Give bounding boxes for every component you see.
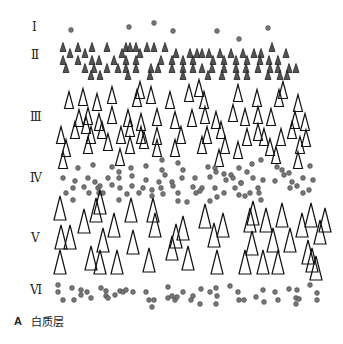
cell-dot bbox=[214, 286, 219, 291]
cell-dot bbox=[127, 25, 132, 30]
cell-dot bbox=[243, 194, 248, 199]
pyramidal-cell bbox=[185, 85, 194, 102]
pyramidal-cell bbox=[296, 213, 308, 237]
pyramidal-cell bbox=[166, 92, 175, 109]
layer-label-5: Ⅴ bbox=[31, 232, 40, 244]
pyramidal-cell bbox=[153, 109, 162, 126]
cell-dot bbox=[144, 164, 149, 169]
cell-dot bbox=[276, 298, 281, 303]
small-pyramidal-cell bbox=[96, 56, 102, 65]
pyramidal-cell bbox=[126, 120, 135, 137]
cell-dot bbox=[261, 178, 266, 183]
cell-dot bbox=[160, 168, 165, 173]
cell-dot bbox=[144, 178, 149, 183]
figure-caption: A 白质层 bbox=[14, 313, 64, 329]
pyramidal-cell bbox=[217, 213, 229, 237]
cell-dot bbox=[117, 198, 122, 203]
cell-dot bbox=[191, 185, 196, 190]
small-pyramidal-cell bbox=[158, 56, 164, 65]
pyramidal-cell bbox=[243, 129, 252, 146]
pyramidal-cell bbox=[188, 110, 197, 127]
pyramidal-cell bbox=[108, 107, 117, 124]
cell-dot bbox=[261, 288, 266, 293]
small-pyramidal-cell bbox=[251, 49, 257, 58]
layer-5-large-pyramidal-cells bbox=[54, 190, 331, 280]
cell-dot bbox=[273, 179, 278, 184]
cell-dot bbox=[214, 302, 219, 307]
cell-dot bbox=[150, 194, 155, 199]
layer-1-molecular-dots bbox=[69, 21, 271, 42]
cell-dot bbox=[198, 302, 203, 307]
pyramidal-cell bbox=[117, 127, 126, 144]
pyramidal-cell bbox=[234, 85, 243, 102]
pyramidal-cell bbox=[85, 246, 97, 270]
cell-dot bbox=[248, 191, 253, 196]
pyramidal-cell bbox=[195, 80, 204, 97]
cell-dot bbox=[166, 285, 171, 290]
cell-dot bbox=[110, 165, 115, 170]
cell-dot bbox=[175, 295, 180, 300]
pyramidal-cell bbox=[253, 90, 262, 107]
cell-dot bbox=[198, 189, 203, 194]
cell-dot bbox=[254, 295, 259, 300]
pyramidal-cell bbox=[319, 208, 331, 232]
pyramidal-cell bbox=[171, 140, 180, 157]
layer-3-pyramidal-cells bbox=[57, 80, 311, 169]
cell-dot bbox=[113, 293, 118, 298]
pyramidal-cell bbox=[54, 196, 66, 220]
cell-dot bbox=[72, 298, 77, 303]
cell-dot bbox=[56, 283, 61, 288]
layer-4-granular-cells bbox=[61, 158, 316, 205]
pyramidal-cell bbox=[257, 250, 269, 274]
cell-dot bbox=[79, 288, 84, 293]
cell-dot bbox=[144, 290, 149, 295]
cell-dot bbox=[106, 296, 111, 301]
cell-dot bbox=[242, 298, 247, 303]
cell-dot bbox=[159, 186, 164, 191]
pyramidal-cell bbox=[79, 89, 88, 106]
small-pyramidal-cell bbox=[82, 64, 88, 73]
cell-dot bbox=[259, 198, 264, 203]
small-pyramidal-cell bbox=[240, 49, 246, 58]
cell-dot bbox=[117, 176, 122, 181]
cell-dot bbox=[245, 170, 250, 175]
cell-dot bbox=[295, 288, 300, 293]
cell-dot bbox=[147, 298, 152, 303]
pyramidal-cell bbox=[104, 134, 113, 151]
pyramidal-cell bbox=[90, 198, 102, 222]
cell-dot bbox=[215, 195, 220, 200]
cell-dot bbox=[86, 176, 91, 181]
cell-dot bbox=[215, 294, 220, 299]
pyramidal-cell bbox=[241, 109, 250, 126]
caption-panel-letter: A bbox=[14, 315, 22, 327]
pyramidal-cell bbox=[182, 246, 194, 270]
layer-label-4: Ⅳ bbox=[30, 172, 42, 184]
cell-dot bbox=[257, 191, 262, 196]
cell-dot bbox=[152, 298, 157, 303]
cell-dot bbox=[308, 164, 313, 169]
cell-dot bbox=[273, 290, 278, 295]
pyramidal-cell bbox=[310, 256, 322, 280]
small-pyramidal-cell bbox=[293, 64, 299, 73]
cell-dot bbox=[315, 291, 320, 296]
pyramidal-cell bbox=[93, 94, 102, 111]
small-pyramidal-cell bbox=[97, 71, 103, 80]
cell-dot bbox=[180, 176, 185, 181]
cell-dot bbox=[236, 290, 241, 295]
pyramidal-cell bbox=[302, 240, 314, 264]
layer-label-1: Ⅰ bbox=[32, 21, 37, 33]
cell-dot bbox=[250, 162, 255, 167]
pyramidal-cell bbox=[302, 130, 311, 147]
cell-dot bbox=[287, 287, 292, 292]
pyramidal-cell bbox=[147, 87, 156, 104]
pyramidal-cell bbox=[305, 203, 317, 227]
cell-dot bbox=[129, 166, 134, 171]
cell-dot bbox=[106, 176, 111, 181]
cell-dot bbox=[160, 158, 165, 163]
pyramidal-cell bbox=[59, 152, 68, 169]
cell-dot bbox=[91, 163, 96, 168]
pyramidal-cell bbox=[199, 204, 211, 228]
small-pyramidal-cell bbox=[60, 56, 66, 65]
cell-dot bbox=[208, 290, 213, 295]
small-pyramidal-cell bbox=[266, 56, 272, 65]
